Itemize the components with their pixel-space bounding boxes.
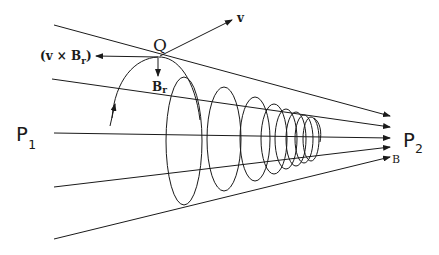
vxbr-vector [96, 56, 158, 57]
field-line-4 [54, 147, 390, 187]
motion-direction-arrow [110, 104, 115, 126]
label-Q: Q [153, 35, 167, 55]
field-line-5 [54, 157, 390, 239]
label-br: Br [152, 80, 167, 95]
field-line-1 [54, 25, 390, 116]
field-lines [52, 25, 390, 239]
label-P1: P1 [16, 122, 36, 152]
helix-path [112, 57, 321, 205]
field-line-3 [54, 133, 390, 138]
diagram-canvas: Q v (v × Br) Br P1 P2 B [0, 0, 439, 255]
label-B: B [392, 153, 400, 166]
label-P2: P2 [403, 128, 423, 156]
magnetic-mirror-diagram: Q v (v × Br) Br P1 P2 B [0, 0, 439, 255]
v-vector [160, 20, 232, 56]
label-v: v [236, 11, 245, 25]
label-vxbr: (v × Br) [40, 49, 92, 66]
field-line-2 [52, 79, 390, 127]
